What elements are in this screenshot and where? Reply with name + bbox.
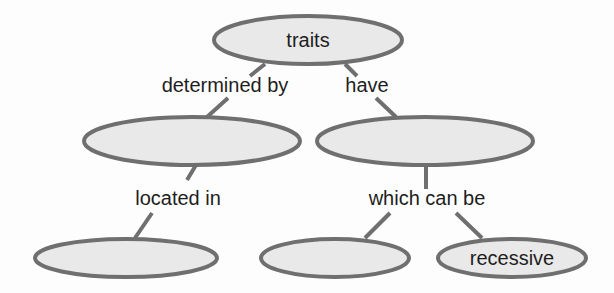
node-bottom-left[interactable] [35,239,217,277]
node-label-traits: traits [286,29,329,51]
edge-traits-mid-left-lower [207,98,228,117]
edge-label-which-can-be: which can be [368,187,486,209]
edge-mid-left-bottom-left-upper [187,165,196,180]
edge-label-located-in: located in [135,187,221,209]
edge-traits-mid-right-lower [376,98,396,117]
edge-label-determined-by: determined by [162,74,289,96]
edge-label-have: have [345,74,388,96]
node-mid-left[interactable] [84,117,300,165]
node-label-recessive: recessive [470,247,554,269]
node-bottom-right[interactable]: recessive [438,239,586,277]
edge-mid-left-bottom-left-lower [135,213,152,238]
edge-to-bottom-mid [365,213,390,238]
concept-map: traits recessive determined by have loca… [0,0,614,293]
node-bottom-mid[interactable] [261,239,409,277]
node-traits[interactable]: traits [214,16,402,64]
node-mid-right[interactable] [317,117,533,165]
edge-to-bottom-right [456,213,482,238]
